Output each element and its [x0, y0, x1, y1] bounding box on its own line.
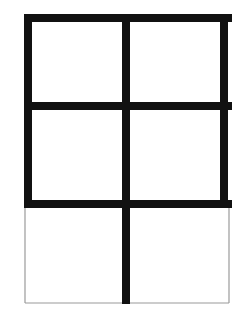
cell-row1-col1 — [32, 22, 122, 102]
cell-row1-col2 — [130, 22, 220, 102]
cell-row2-col1 — [32, 110, 122, 200]
grid-figure — [0, 0, 242, 320]
cell-row3-col1 — [26, 208, 122, 302]
figure-canvas — [0, 0, 242, 320]
cell-row3-col2 — [130, 208, 228, 302]
cell-row2-col2 — [130, 110, 220, 200]
